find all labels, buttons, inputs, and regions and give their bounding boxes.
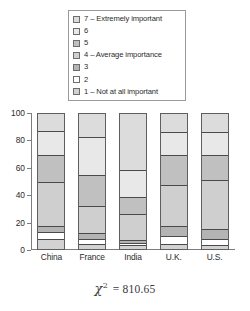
legend-label: 1 – Not at all important [84, 88, 158, 96]
bar-segment [79, 245, 105, 249]
bar-segment [38, 233, 64, 240]
legend-swatch-6 [73, 28, 80, 35]
bar-segment [161, 237, 187, 245]
x-label-china: China [31, 252, 72, 262]
chi-exponent: 2 [103, 281, 109, 290]
bar-segment [38, 132, 64, 156]
bar-segment [202, 246, 228, 249]
bar-segment [161, 114, 187, 133]
y-tick-label: 60 [16, 163, 25, 173]
y-tick-mark [27, 250, 31, 251]
legend-label: 7 – Extremely important [84, 15, 162, 23]
bar-segment [38, 240, 64, 249]
bar-segment [120, 198, 146, 216]
bar-segment [161, 133, 187, 156]
x-label-uk: U.K. [153, 252, 194, 262]
legend-label: 2 [84, 76, 88, 84]
legend-label: 6 [84, 27, 88, 35]
legend-swatch-7 [73, 16, 80, 23]
bar-segment [202, 156, 228, 182]
bar-segment [202, 240, 228, 247]
x-label-india: India [113, 252, 154, 262]
bar-segment [202, 114, 228, 133]
legend-swatch-1 [73, 88, 80, 95]
y-axis: 100806040200 [0, 113, 31, 250]
legend-swatch-3 [73, 64, 80, 71]
bar-segment [202, 133, 228, 156]
bar-segment [161, 186, 187, 228]
bar-india[interactable] [119, 113, 147, 250]
bar-segment [120, 171, 146, 198]
legend-swatch-2 [73, 76, 80, 83]
legend-item-4[interactable]: 4 – Average importance [73, 49, 182, 61]
bar-segment [38, 183, 64, 228]
bar-us[interactable] [201, 113, 229, 250]
y-tick-label: 0 [20, 245, 25, 255]
bar-segment [38, 156, 64, 183]
bar-segment [79, 207, 105, 234]
bar-china[interactable] [37, 113, 65, 250]
bar-segment [161, 245, 187, 249]
legend-swatch-4 [73, 52, 80, 59]
legend-label: 4 – Average importance [84, 51, 162, 59]
legend-swatch-5 [73, 40, 80, 47]
legend-label: 3 [84, 63, 88, 71]
bar-segment [38, 114, 64, 132]
chi-value: = 810.65 [113, 283, 156, 295]
y-tick-label: 80 [16, 135, 25, 145]
bar-segment [79, 114, 105, 138]
x-label-us: U.S. [194, 252, 235, 262]
bar-segment [202, 181, 228, 230]
x-label-france: France [72, 252, 113, 262]
plot-area [31, 113, 235, 250]
bar-uk[interactable] [160, 113, 188, 250]
bar-segment [202, 230, 228, 239]
bar-segment [79, 138, 105, 176]
x-axis-labels: ChinaFranceIndiaU.K.U.S. [31, 252, 235, 266]
y-tick-label: 100 [11, 108, 25, 118]
bar-segment [120, 246, 146, 249]
legend-item-3[interactable]: 3 [73, 61, 182, 73]
chi-square-annotation: χ2 = 810.65 [0, 281, 250, 296]
bar-segment [120, 215, 146, 241]
y-tick-label: 40 [16, 190, 25, 200]
legend-item-2[interactable]: 2 [73, 73, 182, 85]
legend: 7 – Extremely important654 – Average imp… [68, 10, 186, 101]
bar-segment [120, 114, 146, 171]
bar-france[interactable] [78, 113, 106, 250]
legend-label: 5 [84, 39, 88, 47]
legend-item-1[interactable]: 1 – Not at all important [73, 86, 182, 98]
bar-segment [161, 227, 187, 236]
chi-symbol: χ [95, 281, 103, 296]
bar-segment [79, 176, 105, 207]
legend-item-7[interactable]: 7 – Extremely important [73, 13, 182, 25]
legend-item-6[interactable]: 6 [73, 25, 182, 37]
bar-segment [161, 156, 187, 186]
y-tick-label: 20 [16, 218, 25, 228]
legend-item-5[interactable]: 5 [73, 37, 182, 49]
